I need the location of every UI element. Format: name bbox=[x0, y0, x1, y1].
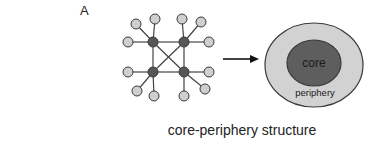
peripheral-node bbox=[150, 14, 160, 24]
peripheral-node bbox=[179, 91, 189, 101]
periphery-label: periphery bbox=[295, 87, 335, 98]
network-edges bbox=[128, 19, 209, 96]
core-node bbox=[179, 37, 189, 47]
peripheral-node bbox=[177, 14, 187, 24]
transform-arrow bbox=[223, 55, 259, 63]
peripheral-node bbox=[132, 86, 142, 96]
peripheral-node bbox=[200, 84, 210, 94]
peripheral-node bbox=[149, 91, 159, 101]
core-periphery-schematic: core periphery bbox=[265, 23, 363, 107]
peripheral-node bbox=[204, 67, 214, 77]
core-label: core bbox=[302, 56, 326, 70]
peripheral-node bbox=[196, 17, 206, 27]
peripheral-node bbox=[123, 67, 133, 77]
core-node bbox=[148, 67, 158, 77]
peripheral-node bbox=[131, 19, 141, 29]
core-node bbox=[148, 37, 158, 47]
peripheral-node bbox=[123, 37, 133, 47]
core-periphery-figure: A core periphery core-periphery structur… bbox=[0, 0, 372, 160]
peripheral-node bbox=[204, 37, 214, 47]
core-node bbox=[179, 67, 189, 77]
figure-caption: core-periphery structure bbox=[0, 122, 372, 138]
